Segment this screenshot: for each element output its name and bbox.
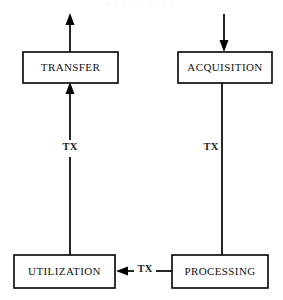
diagram-canvas: DATA CYCLE TX TX TX [0,0,283,300]
node-utilization[interactable]: UTILIZATION [14,255,115,288]
node-transfer-label: TRANSFER [41,61,101,73]
node-processing[interactable]: PROCESSING [172,255,268,288]
node-acquisition-label: ACQUISITION [187,61,262,73]
node-utilization-label: UTILIZATION [28,265,101,277]
data-cycle-diagram: TX TX TX TRANSFER ACQUISITION UTILIZATIO… [0,0,283,300]
node-transfer[interactable]: TRANSFER [23,52,118,83]
edge-label-processing-utilization: TX [137,263,152,274]
edge-utilization-to-transfer: TX [62,82,77,255]
arrowhead-left-utilization-input [116,267,128,276]
arrowhead-down-acquisition-input [220,40,229,52]
edge-acquisition-input [220,14,229,52]
edge-acquisition-to-processing: TX [203,83,222,255]
node-processing-label: PROCESSING [184,265,255,277]
arrowhead-up-transfer-output [66,13,75,25]
edge-processing-to-utilization: TX [116,263,172,275]
edge-label-acquisition-processing: TX [203,141,218,152]
edge-label-utilization-transfer: TX [62,141,77,152]
node-acquisition[interactable]: ACQUISITION [178,52,272,83]
arrowhead-up-transfer-input [66,82,75,94]
edge-transfer-output [66,13,75,52]
